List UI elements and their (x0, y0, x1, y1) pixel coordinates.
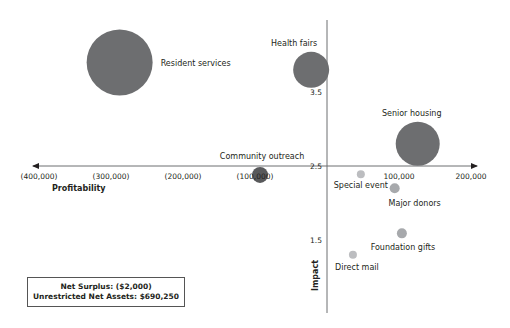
x-tick-label: (100,000) (237, 172, 274, 181)
y-tick-labels: 1.52.53.5 (310, 88, 322, 245)
summary-box: Net Surplus: ($2,000) Unrestricted Net A… (27, 277, 185, 307)
bubble-label: Resident services (161, 59, 231, 68)
x-tick-label: (300,000) (93, 172, 130, 181)
bubble-label: Foundation gifts (371, 243, 435, 252)
unrestricted-net-assets-text: Unrestricted Net Assets: $690,250 (33, 292, 179, 302)
bubble-health-fairs (293, 52, 329, 88)
y-tick-label: 3.5 (310, 88, 322, 97)
x-axis-title: Profitability (52, 184, 106, 193)
bubble-label: Senior housing (382, 109, 442, 118)
bubble-major-donors (390, 183, 400, 193)
bubble-direct-mail (349, 251, 357, 259)
bubble-resident-services (87, 29, 153, 95)
net-surplus-text: Net Surplus: ($2,000) (60, 282, 151, 292)
bubble-senior-housing (396, 122, 440, 166)
bubble-label: Health fairs (271, 39, 317, 48)
x-tick-label: 200,000 (455, 172, 486, 181)
y-tick-label: 2.5 (310, 162, 322, 171)
bubble-special-event (357, 170, 365, 178)
x-tick-label: 100,000 (383, 172, 414, 181)
bubble-label: Community outreach (220, 152, 304, 161)
x-tick-labels: (400,000)(300,000)(200,000)(100,000)100,… (21, 172, 487, 181)
y-axis-title: Impact (311, 260, 320, 291)
bubbles-layer: Resident servicesHealth fairsSenior hous… (87, 29, 442, 271)
x-tick-label: (400,000) (21, 172, 58, 181)
bubble-label: Special event (334, 181, 388, 190)
bubble-label: Major donors (389, 199, 441, 208)
x-tick-label: (200,000) (165, 172, 202, 181)
bubble-label: Direct mail (335, 263, 379, 272)
y-tick-label: 1.5 (310, 236, 322, 245)
bubble-foundation-gifts (397, 228, 407, 238)
